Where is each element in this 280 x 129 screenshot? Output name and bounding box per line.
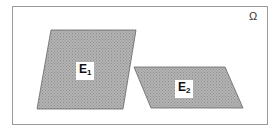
set-e1-label: E1 bbox=[76, 62, 94, 80]
set-e2-letter: E bbox=[178, 80, 186, 94]
set-e2-label: E2 bbox=[175, 80, 193, 98]
sample-space-label: Ω bbox=[249, 10, 257, 22]
diagram-canvas bbox=[0, 0, 280, 129]
set-e1-subscript: 1 bbox=[87, 68, 91, 77]
set-e1-letter: E bbox=[79, 62, 87, 76]
set-e2-subscript: 2 bbox=[186, 86, 190, 95]
